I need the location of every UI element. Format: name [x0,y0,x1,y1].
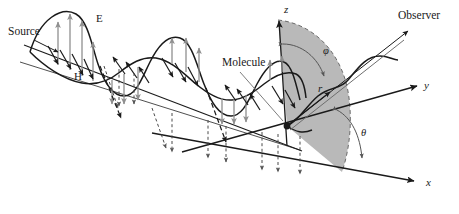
label-axis-y: y [423,79,429,91]
label-observer: Observer [398,9,440,21]
molecule-point [284,123,291,130]
label-axis-z: z [283,3,289,15]
diagram-canvas: Source E H Molecule Observer z y x φ θ r [0,0,459,214]
e-field-arrows [58,14,282,124]
label-h-field: H [74,70,82,82]
label-axis-x: x [425,176,431,188]
label-angle-theta: θ [361,127,366,138]
label-radius: r [318,82,323,94]
projection-lines [104,66,300,174]
axis-x-line [152,133,414,181]
label-angle-phi: φ [323,45,329,56]
scattering-diagram-figure: Source E H Molecule Observer z y x φ θ r [0,0,459,214]
label-source: Source [8,25,40,37]
label-molecule: Molecule [222,56,265,68]
label-e-field: E [96,12,103,24]
